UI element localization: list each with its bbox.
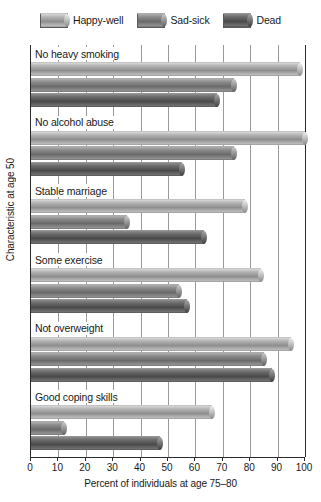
bar-sad-sick (31, 215, 127, 229)
legend-label-sad-sick: Sad-sick (170, 14, 209, 26)
x-axis-tick-label: 40 (134, 462, 145, 473)
bar-happy-well (31, 131, 305, 145)
legend-item-sad-sick: Sad-sick (137, 13, 209, 28)
x-axis-tick-label: 60 (189, 462, 200, 473)
bar-group: Stable marriage (31, 182, 305, 251)
x-axis-tick (57, 457, 58, 461)
category-label: No alcohol abuse (33, 116, 117, 129)
bar-sad-sick (31, 146, 234, 160)
bar-group: Some exercise (31, 251, 305, 320)
x-axis-tick (167, 457, 168, 461)
legend-label-happy-well: Happy-well (73, 14, 123, 26)
bar-dead (31, 368, 272, 382)
bar-group: Good coping skills (31, 388, 305, 457)
legend-item-happy-well: Happy-well (40, 13, 123, 28)
x-axis: 0102030405060708090100 (30, 457, 304, 477)
bar-happy-well (31, 268, 261, 282)
bar-sad-sick (31, 421, 64, 435)
x-axis-tick-label: 90 (271, 462, 282, 473)
bar-happy-well (31, 62, 300, 76)
x-axis-tick (277, 457, 278, 461)
x-axis-tick-label: 70 (216, 462, 227, 473)
bar-group: No heavy smoking (31, 45, 305, 114)
y-axis-title-text: Characteristic at age 50 (5, 158, 16, 261)
legend-swatch-dead (223, 13, 251, 28)
bar-sad-sick (31, 284, 179, 298)
x-axis-tick-label: 50 (161, 462, 172, 473)
bar-dead (31, 299, 187, 313)
x-axis-tick-label: 30 (107, 462, 118, 473)
bar-happy-well (31, 405, 212, 419)
x-axis-tick (249, 457, 250, 461)
x-axis-tick-label: 0 (27, 462, 33, 473)
bar-sad-sick (31, 78, 234, 92)
x-axis-tick-label: 20 (79, 462, 90, 473)
legend-item-dead: Dead (223, 13, 281, 28)
legend-swatch-sad-sick (137, 13, 165, 28)
legend-swatch-happy-well (40, 13, 68, 28)
x-axis-tick (85, 457, 86, 461)
bar-happy-well (31, 337, 291, 351)
x-axis-tick (30, 457, 31, 461)
bar-dead (31, 436, 160, 450)
bar-dead (31, 162, 182, 176)
x-axis-title: Percent of individuals at age 75–80 (0, 478, 321, 489)
chart-legend: Happy-well Sad-sick Dead (0, 8, 321, 32)
bar-dead (31, 230, 204, 244)
x-axis-tick-label: 10 (52, 462, 63, 473)
bar-group: No alcohol abuse (31, 114, 305, 183)
x-axis-tick (304, 457, 305, 461)
x-axis-tick (140, 457, 141, 461)
bar-dead (31, 93, 217, 107)
bar-sad-sick (31, 352, 264, 366)
x-axis-tick (112, 457, 113, 461)
x-axis-tick-label: 80 (244, 462, 255, 473)
x-axis-tick-label: 100 (296, 462, 313, 473)
category-label: Stable marriage (33, 184, 110, 197)
x-axis-tick (222, 457, 223, 461)
gridline (305, 45, 306, 457)
bar-happy-well (31, 199, 245, 213)
y-axis-title: Characteristic at age 50 (0, 0, 20, 420)
category-label: Some exercise (33, 253, 106, 266)
bar-group: Not overweight (31, 320, 305, 389)
category-label: No heavy smoking (33, 47, 122, 60)
x-axis-tick (194, 457, 195, 461)
plot-area: No heavy smokingNo alcohol abuseStable m… (30, 45, 305, 458)
category-label: Good coping skills (33, 390, 121, 403)
category-label: Not overweight (33, 322, 106, 335)
legend-label-dead: Dead (256, 14, 281, 26)
